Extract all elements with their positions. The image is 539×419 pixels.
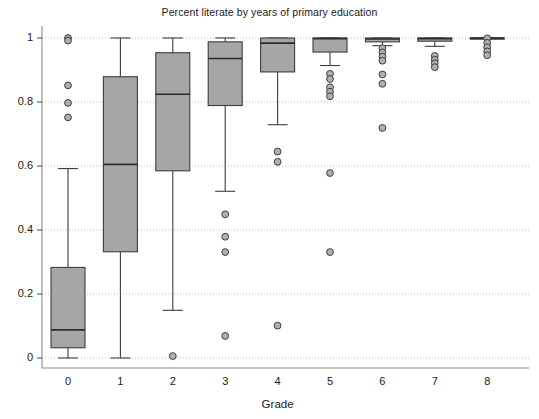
- outlier-point: [222, 333, 229, 340]
- box-iqr: [51, 267, 85, 347]
- outlier-point: [431, 64, 438, 71]
- outlier-point: [327, 170, 334, 177]
- box-iqr: [156, 53, 190, 171]
- outlier-point: [274, 322, 281, 329]
- y-tick-label: 0.4: [18, 223, 33, 235]
- outlier-point: [327, 249, 334, 256]
- outlier-point: [65, 37, 72, 44]
- box-group-grade-4: [261, 38, 295, 329]
- box-group-grade-0: [51, 35, 85, 358]
- outlier-point: [65, 82, 72, 89]
- outlier-point: [169, 353, 176, 360]
- x-tick-label: 8: [484, 375, 490, 387]
- box-group-grade-8: [470, 35, 504, 59]
- plot-area: 00.20.40.60.81 012345678 Grade: [0, 0, 539, 419]
- box-group-grade-5: [313, 38, 347, 255]
- outlier-point: [379, 57, 386, 64]
- x-tick-label: 7: [432, 375, 438, 387]
- box-series: [51, 35, 504, 360]
- box-group-grade-6: [365, 38, 399, 131]
- box-iqr: [208, 42, 242, 106]
- outlier-point: [274, 158, 281, 165]
- x-tick-label: 2: [170, 375, 176, 387]
- outlier-point: [327, 93, 334, 100]
- outlier-point: [65, 100, 72, 107]
- box-group-grade-2: [156, 38, 190, 359]
- x-tick-label: 0: [65, 375, 71, 387]
- outlier-point: [484, 52, 491, 59]
- y-tick-label: 0: [27, 351, 33, 363]
- outlier-point: [274, 148, 281, 155]
- outlier-point: [379, 80, 386, 87]
- y-axis-ticks: 00.20.40.60.81: [18, 31, 42, 363]
- x-axis-title: Grade: [262, 398, 294, 410]
- box-group-grade-7: [418, 38, 452, 71]
- outlier-point: [65, 114, 72, 121]
- outlier-point: [222, 211, 229, 218]
- outlier-point: [222, 233, 229, 240]
- outlier-point: [327, 76, 334, 83]
- x-tick-label: 5: [327, 375, 333, 387]
- outlier-point: [379, 125, 386, 132]
- box-group-grade-1: [103, 38, 137, 358]
- y-tick-label: 0.8: [18, 95, 33, 107]
- x-tick-label: 3: [222, 375, 228, 387]
- y-tick-label: 0.6: [18, 159, 33, 171]
- y-tick-label: 0.2: [18, 287, 33, 299]
- outlier-point: [379, 71, 386, 78]
- x-axis-ticks: 012345678: [65, 375, 490, 387]
- x-tick-label: 4: [275, 375, 281, 387]
- y-tick-label: 1: [27, 31, 33, 43]
- x-tick-label: 6: [379, 375, 385, 387]
- box-iqr: [313, 38, 347, 52]
- outlier-point: [222, 249, 229, 256]
- x-tick-label: 1: [117, 375, 123, 387]
- boxplot-chart: Percent literate by years of primary edu…: [0, 0, 539, 419]
